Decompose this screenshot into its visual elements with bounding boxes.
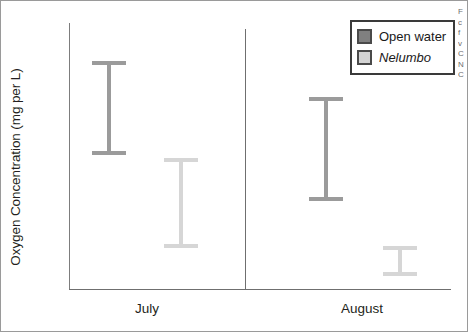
caption-line: f bbox=[458, 28, 468, 39]
errorbar-cap-top bbox=[383, 246, 417, 250]
errorbar-stem bbox=[324, 97, 328, 201]
legend-label-open-water: Open water bbox=[379, 29, 446, 44]
legend-label-nelumbo: Nelumbo bbox=[379, 50, 431, 65]
errorbar-cap-bottom bbox=[92, 151, 126, 155]
x-tick-label-august: August bbox=[292, 301, 432, 316]
legend: Open water Nelumbo bbox=[350, 20, 455, 75]
caption-line: c bbox=[458, 18, 468, 29]
oxygen-concentration-chart: Oxygen Concentration (mg per L) 14 12 10… bbox=[0, 0, 468, 332]
errorbar-cap-top bbox=[92, 61, 126, 65]
errorbar-august-nelumbo bbox=[383, 246, 417, 276]
errorbar-stem bbox=[179, 158, 183, 248]
group-divider-line bbox=[245, 29, 246, 289]
errorbar-cap-top bbox=[164, 158, 198, 162]
errorbar-cap-bottom bbox=[164, 244, 198, 248]
legend-swatch-icon-open-water bbox=[357, 29, 372, 44]
caption-line: F bbox=[458, 7, 468, 18]
caption-line: v bbox=[458, 39, 468, 50]
caption-line: C bbox=[458, 49, 468, 60]
errorbar-cap-bottom bbox=[383, 272, 417, 276]
caption-line: C bbox=[458, 70, 468, 77]
x-axis-line bbox=[69, 289, 451, 290]
clipped-caption-text: F c f v C N C bbox=[458, 7, 468, 77]
y-axis-line bbox=[69, 23, 70, 289]
x-tick-label-july: July bbox=[77, 301, 217, 316]
errorbar-july-nelumbo bbox=[164, 158, 198, 248]
legend-item-nelumbo: Nelumbo bbox=[357, 47, 446, 68]
errorbar-july-open-water bbox=[92, 61, 126, 155]
errorbar-stem bbox=[107, 61, 111, 155]
errorbar-cap-top bbox=[309, 97, 343, 101]
caption-line: N bbox=[458, 60, 468, 71]
errorbar-cap-bottom bbox=[309, 197, 343, 201]
errorbar-august-open-water bbox=[309, 97, 343, 201]
legend-item-open-water: Open water bbox=[357, 26, 446, 47]
y-axis-title: Oxygen Concentration (mg per L) bbox=[1, 1, 29, 332]
legend-swatch-icon-nelumbo bbox=[357, 50, 372, 65]
